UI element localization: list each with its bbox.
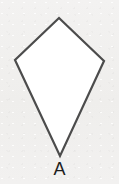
kite-polygon — [15, 18, 104, 156]
shape-label-a: A — [0, 159, 119, 179]
kite-shape-svg — [0, 0, 119, 184]
figure-panel: A — [0, 0, 119, 184]
